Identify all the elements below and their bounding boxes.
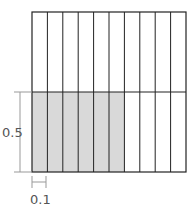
shaded-cell — [78, 92, 93, 172]
shaded-cell — [109, 92, 124, 172]
shaded-cell — [94, 92, 109, 172]
shaded-cell — [47, 92, 62, 172]
height-label: 0.5 — [2, 125, 23, 140]
decimal-grid-diagram: 0.5 0.1 — [0, 0, 196, 211]
width-dimension — [32, 176, 46, 188]
shaded-cell — [32, 92, 47, 172]
width-label: 0.1 — [30, 192, 51, 207]
shaded-cell — [63, 92, 78, 172]
